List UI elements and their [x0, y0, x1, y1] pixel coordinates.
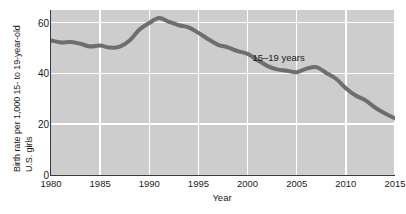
- series-annotation-layer: 15–19 years: [51, 10, 395, 175]
- x-axis-title: Year: [50, 192, 394, 203]
- x-tick-label: 2015: [384, 178, 405, 189]
- y-tick-label: 40: [29, 68, 49, 79]
- y-axis-title-line-1: Birth rate per 1,000 15- to 19-year-old: [12, 25, 22, 172]
- y-tick-label: 0: [29, 170, 49, 181]
- x-tick-label: 2000: [237, 178, 258, 189]
- x-tick-label: 1985: [90, 178, 111, 189]
- y-axis-title-line-2: U.S. girls: [24, 136, 34, 172]
- x-tick-label: 2010: [335, 178, 356, 189]
- plot-area: 198019851990199520002005201020150204060 …: [50, 10, 395, 176]
- y-tick-label: 20: [29, 119, 49, 130]
- x-tick-label: 2005: [286, 178, 307, 189]
- y-tick-label: 60: [29, 17, 49, 28]
- series-annotation-15-19-years: 15–19 years: [252, 52, 304, 63]
- birth-rate-line-chart: Birth rate per 1,000 15- to 19-year-old …: [0, 0, 406, 214]
- x-tick-label: 1990: [139, 178, 160, 189]
- x-tick-label: 1995: [188, 178, 209, 189]
